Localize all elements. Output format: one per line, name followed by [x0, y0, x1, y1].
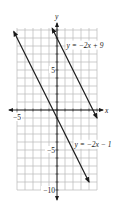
series-label-1: y = −2x + 9 [66, 41, 104, 50]
y-tick-label: −10 [43, 186, 55, 195]
x-axis-label: x [104, 106, 109, 115]
y-tick-label: 5 [51, 66, 55, 75]
coordinate-plane-chart: y = −2x + 9y = −2x − 1xy−55−5−10 [0, 0, 117, 207]
y-axis-label: y [54, 12, 59, 21]
plot-lines [14, 28, 97, 182]
series-label-2: y = −2x − 1 [74, 140, 112, 149]
x-tick-label: −5 [13, 113, 21, 122]
y-tick-label: −5 [47, 146, 55, 155]
labels: y = −2x + 9y = −2x − 1xy−55−5−10 [12, 12, 116, 195]
